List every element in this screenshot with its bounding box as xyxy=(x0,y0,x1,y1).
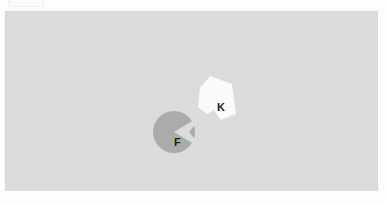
shape-k-group[interactable] xyxy=(198,76,236,120)
clipped-toolbar-fragment-icon xyxy=(8,0,44,7)
screenshot-stage: F K xyxy=(0,0,387,205)
shape-k-label: K xyxy=(217,102,225,113)
shape-layer: F K xyxy=(5,11,378,191)
notched-quadrilateral-k-icon[interactable] xyxy=(198,76,236,120)
shape-f-label: F xyxy=(174,137,181,148)
shapes-svg xyxy=(5,11,378,191)
stimulus-canvas[interactable]: F K xyxy=(5,11,378,191)
